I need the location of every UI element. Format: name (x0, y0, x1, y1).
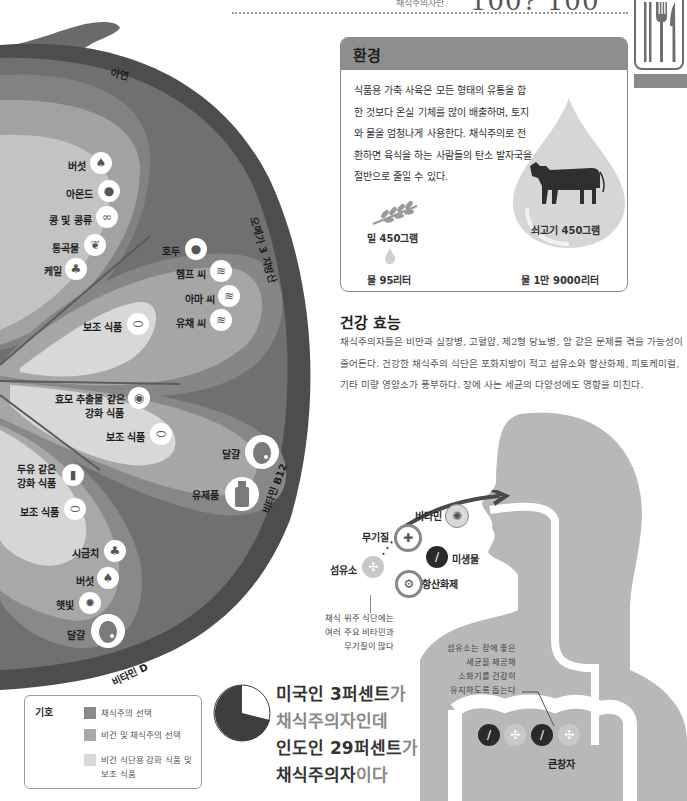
vitamin-icon: ✺ (445, 504, 469, 528)
b12-supplement: 보조 식품 (106, 429, 145, 444)
vitd-item-sunlight: 햇빛 (56, 597, 74, 612)
soymilk-carton-icon: ▮ (62, 464, 84, 486)
nutrient-microbe: 미생물 (452, 551, 479, 566)
omega-supplement: 보조 식품 (83, 319, 122, 334)
omega-item-walnut: 호두 (162, 243, 180, 258)
health-title: 건강 효능 (340, 311, 401, 332)
wheat-water: 물 95리터 (367, 272, 411, 287)
cow-icon (526, 158, 606, 206)
legend-label-fortified-2: 보조 식품 (101, 767, 136, 781)
zinc-item-almond: 아몬드 (66, 186, 93, 201)
nutrient-wheel (0, 0, 330, 700)
b12-fortified-line1: 효모 추출물 같은 (55, 391, 125, 406)
fiber-note: 섬유소는 장에 좋은 세균을 제공해 소화기를 건강히 유지하도록 돕는다 (447, 641, 516, 697)
zinc-item-kale: 케일 (44, 263, 62, 278)
environment-title: 환경 (353, 44, 381, 65)
kale-icon: ♣ (65, 258, 87, 280)
diet-note: 채식 위주 식단에는 여러 주요 비타민과 무기질이 많다 (325, 611, 394, 653)
fiber-icon: ✣ (558, 724, 580, 746)
jar-icon: ◉ (128, 387, 150, 409)
walnut-icon: ● (185, 238, 207, 260)
mineral-icon: ✚ (394, 524, 422, 552)
cutlery-icon (634, 0, 684, 70)
vitd-fortified-line1: 두유 같은 (17, 461, 56, 476)
legend-label-fortified: 비건 식단용 강화 식품 및 (101, 753, 192, 767)
zinc-item-wholegrain: 통곡물 (52, 240, 79, 255)
omega-item-flax: 아마 씨 (185, 291, 215, 306)
small-water-drop-icon (385, 248, 395, 264)
stat-pie-chart (213, 684, 271, 742)
b12-egg: 달걀 (222, 446, 240, 461)
zinc-item-beans: 콩 및 콩류 (49, 212, 92, 227)
vitd-egg: 달걀 (67, 627, 85, 642)
b12-dairy: 유제품 (192, 487, 219, 502)
nutrient-mineral: 무기질 (362, 529, 389, 544)
capsule-icon: ⬭ (64, 498, 86, 520)
spinach-icon: ♣ (104, 540, 126, 562)
omega-item-rapeseed: 유채 씨 (176, 315, 206, 330)
mushroom-icon: ♠ (97, 567, 119, 589)
capsule-icon: ⬭ (150, 423, 172, 445)
b12-fortified-line2: 강화 식품 (85, 405, 124, 420)
beef-water: 물 1만 9000리터 (521, 272, 599, 287)
capsule-icon: ⬭ (127, 313, 149, 335)
environment-header (341, 38, 627, 70)
legend-swatch-vegan (84, 729, 96, 741)
vitd-supplement: 보조 식품 (20, 504, 59, 519)
wheat-icon (371, 198, 421, 228)
seeds-icon: ≋ (210, 260, 232, 282)
legend-title: 기호 (35, 704, 53, 719)
mushroom-icon: ♠ (90, 152, 112, 174)
environment-text: 식품용 가축 사육은 모든 형태의 유통을 합한 것보다 온실 기체를 많이 배… (354, 80, 534, 188)
beef-label: 쇠고기 450그램 (531, 222, 600, 237)
sun-icon: ✹ (79, 592, 101, 614)
legend-label-vegan: 비건 및 채식주의 선택 (101, 728, 181, 742)
microbe-icon: ∕ (478, 724, 500, 746)
nutrient-vitamin: 비타민 (415, 508, 442, 523)
note-leader-line (370, 595, 371, 613)
stat-text: 미국인 3퍼센트가 채식주의자인데 인도인 29퍼센트가 채식주의자이다 (276, 681, 418, 789)
wholegrain-icon: ❦ (84, 234, 106, 256)
omega-item-hemp: 헴프 씨 (176, 266, 206, 281)
legend: 기호 채식주의 선택 비건 및 채식주의 선택 비건 식단용 강화 식품 및 보… (24, 695, 202, 789)
milk-bottle-icon (225, 477, 259, 511)
seeds-icon: ≋ (218, 285, 240, 307)
environment-panel: 환경 식품용 가축 사육은 모든 형태의 유통을 합한 것보다 온실 기체를 많… (340, 37, 628, 292)
wheat-label: 밀 450그램 (367, 230, 418, 245)
vitd-item-mushroom: 버섯 (76, 573, 94, 588)
legend-swatch-vegetarian (84, 707, 96, 719)
antioxidant-icon: ⚙ (395, 570, 423, 598)
beans-icon: ∞ (96, 206, 118, 228)
seeds-icon: ≋ (210, 309, 232, 331)
legend-swatch-fortified (84, 754, 96, 766)
fiber-note-leader (520, 690, 560, 730)
fiber-icon: ✣ (362, 556, 384, 578)
egg-icon (91, 614, 125, 648)
nutrient-antioxidant: 항산화제 (422, 576, 458, 591)
microbe-icon: ∕ (426, 546, 448, 568)
vitd-item-spinach: 시금치 (72, 545, 99, 560)
almond-icon: ● (98, 180, 120, 202)
header-bar (634, 74, 687, 88)
health-text: 채식주의자들은 비만과 심장병, 고혈압, 제2형 당뇨병, 암 같은 문제를 … (340, 331, 687, 396)
header-subtitle: 채식주의자란 (396, 0, 444, 9)
nutrient-fiber: 섬유소 (330, 562, 357, 577)
vitd-fortified-line2: 강화 식품 (17, 475, 56, 490)
legend-label-vegetarian: 채식주의 선택 (101, 706, 152, 720)
colon-label: 큰창자 (548, 756, 575, 771)
egg-icon (245, 435, 279, 469)
zinc-item-mushroom: 버섯 (68, 158, 86, 173)
